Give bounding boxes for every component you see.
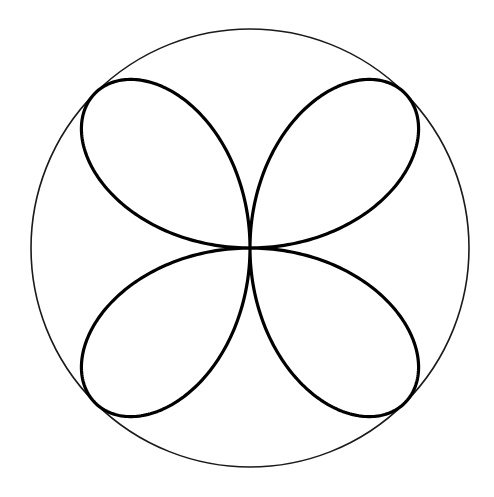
figure-canvas bbox=[0, 0, 494, 497]
rose-curve-diagram bbox=[0, 0, 494, 497]
